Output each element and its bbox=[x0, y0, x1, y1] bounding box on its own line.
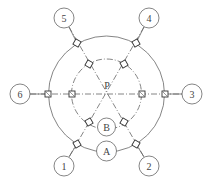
bubble-2: 2 bbox=[139, 156, 159, 176]
svg-text:6: 6 bbox=[18, 89, 23, 100]
axis-lines bbox=[30, 27, 182, 157]
ring-bubble-B: B bbox=[98, 118, 116, 136]
bubble-1: 1 bbox=[54, 156, 74, 176]
svg-text:B: B bbox=[103, 122, 110, 133]
svg-text:A: A bbox=[103, 146, 111, 157]
center-label: P bbox=[104, 80, 110, 91]
column-marker bbox=[73, 140, 81, 148]
bubble-leaders bbox=[30, 27, 182, 157]
svg-text:1: 1 bbox=[62, 161, 67, 172]
bubble-3: 3 bbox=[182, 84, 202, 104]
svg-text:5: 5 bbox=[62, 13, 67, 24]
bubble-5: 5 bbox=[54, 8, 74, 28]
ring-bubble-A: A bbox=[97, 141, 117, 161]
radial-grid-diagram: 1 2 3 4 5 6 A B P bbox=[0, 0, 208, 185]
column-marker bbox=[120, 118, 128, 126]
column-marker bbox=[132, 140, 140, 148]
svg-text:2: 2 bbox=[147, 161, 152, 172]
bubble-6: 6 bbox=[10, 84, 30, 104]
bubble-4: 4 bbox=[139, 8, 159, 28]
svg-text:4: 4 bbox=[147, 13, 152, 24]
svg-text:3: 3 bbox=[190, 89, 195, 100]
column-marker bbox=[85, 118, 93, 126]
